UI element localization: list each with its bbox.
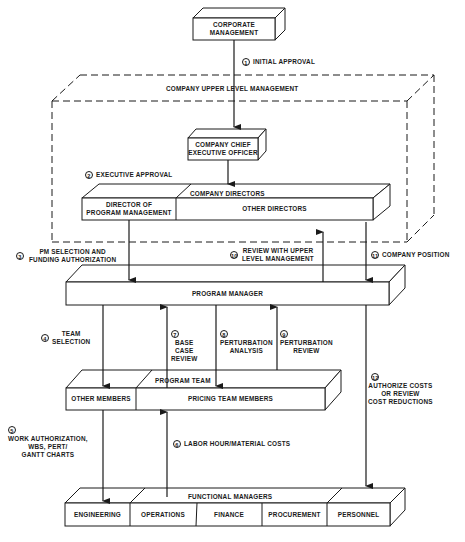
step-text: REVIEW WITH UPPER [242,247,314,255]
program-manager-label: PROGRAM MANAGER [66,290,389,298]
program-manager-box [66,265,405,305]
step-number-badge: 2 [85,171,93,179]
step-text: EXECUTIVE APPROVAL [96,171,172,178]
upper-level-group-label: COMPANY UPPER LEVEL MANAGEMENT [166,85,298,93]
step-number-badge: 10 [230,251,238,259]
label-line: COMPANY CHIEF [188,141,258,149]
step-8-label: 8 PERTURBATION ANALYSIS [220,330,273,355]
director-pm-label: DIRECTOR OF PROGRAM MANAGEMENT [82,201,176,217]
step-number-badge: 8 [220,330,228,338]
step-text: REVIEW [171,355,197,363]
program-team-box [66,370,341,410]
step-text: PM SELECTION AND [29,248,116,256]
step-2-label: 2EXECUTIVE APPROVAL [85,171,172,179]
ceo-label: COMPANY CHIEF EXECUTIVE OFFICER [188,141,258,157]
other-directors-label: OTHER DIRECTORS [176,205,373,213]
label-line: DIRECTOR OF [82,201,176,209]
step-text: PERTURBATION [280,339,333,347]
step-text: TEAM [52,330,90,338]
step-9-label: 9 PERTURBATION REVIEW [280,330,333,355]
step-5-label: 5 WORK AUTHORIZATION, WBS, PERT/ GANTT C… [8,426,88,459]
step-text: FUNDING AUTHORIZATION [29,256,116,264]
step-text: GANTT CHARTS [8,451,88,459]
label-line: CORPORATE [193,21,275,29]
label-line: PROGRAM MANAGEMENT [82,209,176,217]
step-3-label: 3 PM SELECTION AND FUNDING AUTHORIZATION [16,248,116,264]
step-text: COMPANY POSITION [382,251,450,258]
step-7-label: 7 BASE CASE REVIEW [171,330,197,363]
pricing-team-label: PRICING TEAM MEMBERS [136,395,325,403]
step-number-badge: 12 [371,373,379,381]
step-number-badge: 11 [371,251,379,259]
step-number-badge: 5 [8,426,16,434]
step-text: LABOR HOUR/MATERIAL COSTS [184,440,290,447]
step-number-badge: 3 [16,252,24,260]
step-text: INITIAL APPROVAL [253,58,315,65]
step-10-label: 10 REVIEW WITH UPPER LEVEL MANAGEMENT [230,247,314,263]
step-text: SELECTION [52,338,90,346]
step-text: REVIEW [280,347,333,355]
function-personnel: PERSONNEL [327,511,390,519]
other-members-label: OTHER MEMBERS [66,395,136,403]
step-6-label: 6LABOR HOUR/MATERIAL COSTS [173,440,290,448]
step-text: WORK AUTHORIZATION, [8,435,88,443]
step-text: OR REVIEW [368,390,433,398]
step-text: WBS, PERT/ [8,443,88,451]
step-number-badge: 6 [173,440,181,448]
step-text: ANALYSIS [220,347,273,355]
function-finance: FINANCE [196,511,262,519]
step-number-badge: 4 [41,334,49,342]
step-4-label: 4 TEAM SELECTION [41,330,90,346]
functional-managers-label: FUNCTIONAL MANAGERS [188,493,272,501]
step-text: CASE [171,347,197,355]
step-number-badge: 7 [171,330,179,338]
step-1-label: 1INITIAL APPROVAL [242,58,315,66]
function-operations: OPERATIONS [130,511,196,519]
step-text: COST REDUCTIONS [368,398,433,406]
company-directors-label: COMPANY DIRECTORS [190,190,265,198]
step-text: LEVEL MANAGEMENT [242,255,314,263]
label-line: EXECUTIVE OFFICER [188,149,258,157]
flow-diagram [0,0,465,542]
step-number-badge: 9 [280,330,288,338]
program-team-label: PROGRAM TEAM [155,377,211,385]
step-text: AUTHORIZE COSTS [368,382,433,390]
corporate-management-label: CORPORATE MANAGEMENT [193,21,275,37]
step-text: BASE [171,339,197,347]
label-line: MANAGEMENT [193,29,275,37]
function-procurement: PROCUREMENT [262,511,327,519]
step-text: PERTURBATION [220,339,273,347]
step-12-label: 12 AUTHORIZE COSTS OR REVIEW COST REDUCT… [368,373,433,406]
step-number-badge: 1 [242,58,250,66]
function-engineering: ENGINEERING [65,511,130,519]
step-11-label: 11COMPANY POSITION [371,251,450,259]
